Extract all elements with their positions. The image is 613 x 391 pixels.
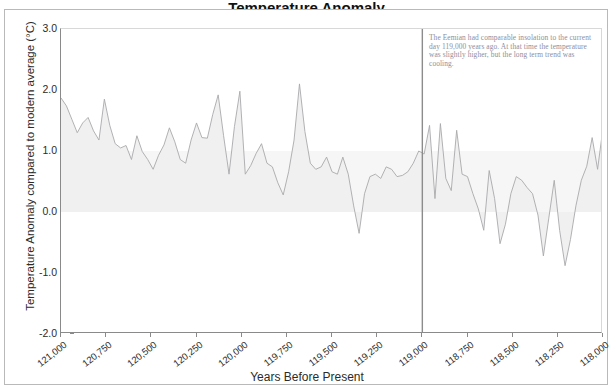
y-axis-label: Temperature Anomaly compared to modern a…	[24, 1, 36, 331]
x-tick-mark	[421, 333, 422, 337]
plot-area	[60, 28, 602, 333]
figure-border: 3.02.01.00.0-1.0-2.0 Temperature Anomaly…	[4, 9, 608, 385]
x-tick-mark	[376, 333, 377, 337]
x-tick-mark	[467, 333, 468, 337]
x-tick-mark	[331, 333, 332, 337]
x-tick-mark	[512, 333, 513, 337]
x-tick-mark	[241, 333, 242, 337]
x-tick-mark	[557, 333, 558, 337]
temperature-anomaly-series	[61, 29, 602, 333]
x-tick-mark	[60, 333, 61, 337]
x-tick-mark	[286, 333, 287, 337]
x-tick-mark	[196, 333, 197, 337]
chart-figure: Temperature Anomaly 3.02.01.00.0-1.0-2.0…	[0, 0, 613, 391]
chart-title: Temperature Anomaly	[0, 0, 613, 9]
eemian-annotation: The Eemian had comparable insolation to …	[429, 34, 592, 68]
x-tick-mark	[602, 333, 603, 337]
y-tick-mark	[70, 333, 74, 334]
x-tick-mark	[150, 333, 151, 337]
x-tick-mark	[105, 333, 106, 337]
